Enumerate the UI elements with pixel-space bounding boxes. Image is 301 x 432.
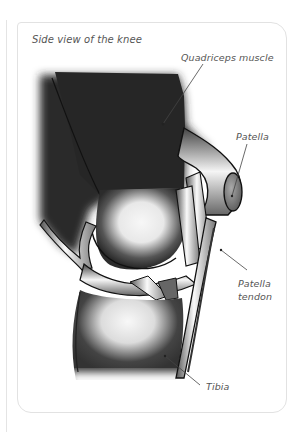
figure-title: Side view of the knee (32, 34, 142, 45)
knee-illustration (0, 0, 301, 432)
label-patella-tendon-line1: Patella (238, 278, 271, 289)
label-patella-tendon-line2: tendon (238, 291, 272, 302)
label-quadriceps-muscle: Quadriceps muscle (181, 52, 274, 63)
tibia-shape (70, 290, 185, 388)
label-tibia: Tibia (206, 381, 229, 392)
label-patella: Patella (236, 131, 269, 142)
